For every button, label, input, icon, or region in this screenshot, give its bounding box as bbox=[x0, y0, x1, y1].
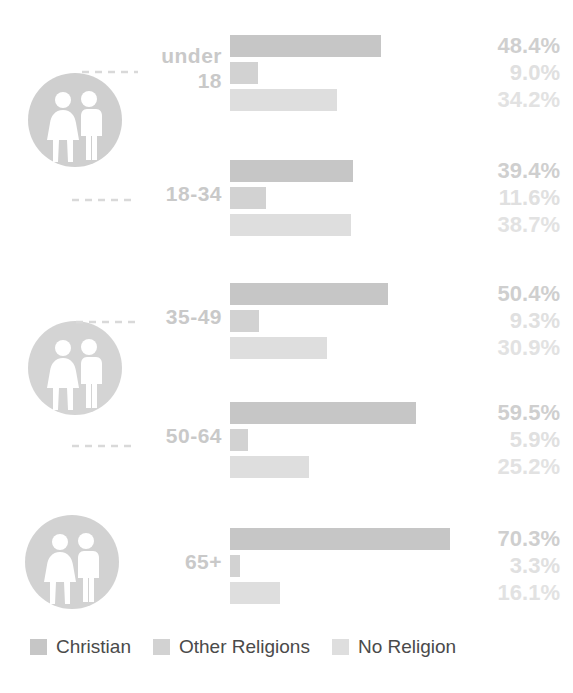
age-group-label: 18-34 bbox=[72, 181, 222, 206]
bar-other-religions bbox=[230, 429, 248, 451]
bar-other-religions bbox=[230, 310, 259, 332]
square-swatch-icon bbox=[30, 639, 47, 655]
bar-group bbox=[230, 35, 381, 111]
legend-item-label: No Religion bbox=[358, 636, 456, 658]
value-christian: 39.4% bbox=[400, 160, 560, 182]
value-label-group: 70.3% 3.3% 16.1% bbox=[400, 528, 560, 604]
legend-item-label: Christian bbox=[56, 636, 131, 658]
age-group-label: under 18 bbox=[72, 43, 222, 93]
value-christian: 50.4% bbox=[400, 283, 560, 305]
bar-group bbox=[230, 283, 388, 359]
bar-christian bbox=[230, 35, 381, 57]
bar-christian bbox=[230, 160, 353, 182]
legend-item-no-religion[interactable]: No Religion bbox=[332, 636, 456, 658]
value-other-religions: 11.6% bbox=[400, 187, 560, 209]
value-label-group: 50.4% 9.3% 30.9% bbox=[400, 283, 560, 359]
value-label-group: 59.5% 5.9% 25.2% bbox=[400, 402, 560, 478]
legend-item-christian[interactable]: Christian bbox=[30, 636, 131, 658]
value-other-religions: 9.3% bbox=[400, 310, 560, 332]
value-no-religion: 16.1% bbox=[400, 582, 560, 604]
value-other-religions: 9.0% bbox=[400, 62, 560, 84]
value-label-group: 48.4% 9.0% 34.2% bbox=[400, 35, 560, 111]
value-no-religion: 34.2% bbox=[400, 89, 560, 111]
bar-christian bbox=[230, 402, 416, 424]
value-no-religion: 25.2% bbox=[400, 456, 560, 478]
age-group-label: 50-64 bbox=[72, 423, 222, 448]
bar-group bbox=[230, 402, 416, 478]
age-group-label: 65+ bbox=[72, 549, 222, 574]
bar-no-religion bbox=[230, 89, 337, 111]
people-pair-badge-2 bbox=[27, 320, 123, 416]
bar-other-religions bbox=[230, 555, 240, 577]
value-no-religion: 38.7% bbox=[400, 214, 560, 236]
value-other-religions: 3.3% bbox=[400, 555, 560, 577]
bar-no-religion bbox=[230, 337, 327, 359]
value-christian: 48.4% bbox=[400, 35, 560, 57]
bar-other-religions bbox=[230, 62, 258, 84]
value-christian: 70.3% bbox=[400, 528, 560, 550]
religion-by-age-chart: under 18 48.4% 9.0% 34.2% 18-34 39.4% 11… bbox=[0, 0, 573, 693]
square-swatch-icon bbox=[153, 639, 170, 655]
age-group-label: 35-49 bbox=[72, 304, 222, 329]
value-christian: 59.5% bbox=[400, 402, 560, 424]
square-swatch-icon bbox=[332, 639, 349, 655]
bar-group bbox=[230, 160, 353, 236]
bar-no-religion bbox=[230, 214, 351, 236]
bar-other-religions bbox=[230, 187, 266, 209]
value-label-group: 39.4% 11.6% 38.7% bbox=[400, 160, 560, 236]
legend-item-label: Other Religions bbox=[179, 636, 310, 658]
bar-christian bbox=[230, 283, 388, 305]
legend-item-other-religions[interactable]: Other Religions bbox=[153, 636, 310, 658]
bar-no-religion bbox=[230, 456, 309, 478]
value-other-religions: 5.9% bbox=[400, 429, 560, 451]
chart-legend: Christian Other Religions No Religion bbox=[30, 636, 478, 658]
bar-no-religion bbox=[230, 582, 280, 604]
value-no-religion: 30.9% bbox=[400, 337, 560, 359]
